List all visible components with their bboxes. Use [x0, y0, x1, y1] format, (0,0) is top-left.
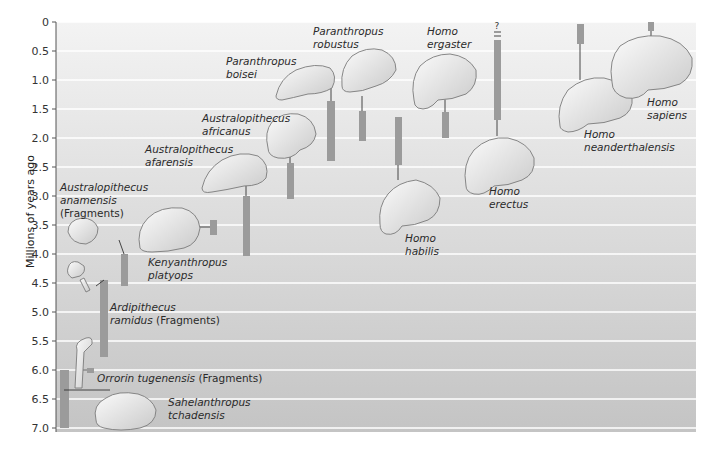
- label-kenyanthropus: Kenyanthropus platyops: [148, 256, 227, 282]
- label-genus: Homo: [405, 232, 439, 245]
- label-genus: Ardipithecus: [110, 301, 220, 314]
- label-species: robustus: [313, 38, 383, 51]
- bar-erectus: [494, 40, 501, 120]
- bar-ergaster: [442, 112, 449, 138]
- label-sapiens: Homo sapiens: [647, 96, 687, 122]
- label-genus: Homo: [584, 128, 675, 141]
- label-species: habilis: [405, 245, 439, 258]
- bar-kenyanthropus: [210, 220, 217, 235]
- label-anamensis: Australopithecus anamensis (Fragments): [60, 181, 148, 220]
- y-tick-label: 1.5: [32, 103, 50, 116]
- label-genus: Australopithecus: [145, 143, 233, 156]
- label-genus: Homo: [427, 25, 471, 38]
- label-species: boisei: [226, 68, 296, 81]
- erectus-question-mark: ?: [495, 21, 500, 31]
- y-tick-label: 1.0: [32, 74, 50, 87]
- y-tick-label: 6.5: [32, 393, 50, 406]
- label-robustus: Paranthropus robustus: [313, 25, 383, 51]
- label-neanderthalensis: Homo neanderthalensis: [584, 128, 675, 154]
- label-africanus: Australopithecus africanus: [202, 112, 290, 138]
- label-genus: Sahelanthropus: [168, 396, 251, 409]
- label-genus: Homo: [647, 96, 687, 109]
- bar-afarensis: [243, 196, 250, 256]
- y-tick-label: 5.5: [32, 335, 50, 348]
- label-ergaster: Homo ergaster: [427, 25, 471, 51]
- y-tick-label: 0.5: [32, 45, 50, 58]
- bar-orrorin: [87, 368, 94, 373]
- bar-boisei: [327, 101, 335, 161]
- label-species: anamensis: [60, 194, 148, 207]
- bar-neanderthalensis: [577, 24, 584, 44]
- label-species: tchadensis: [168, 409, 251, 422]
- bar-sahelanthropus: [60, 370, 69, 428]
- label-genus: Paranthropus: [313, 25, 383, 38]
- label-genus: Australopithecus: [60, 181, 148, 194]
- y-tick-label: 6.0: [32, 364, 50, 377]
- label-note: (Fragments): [198, 372, 262, 384]
- label-sahelanthropus: Sahelanthropus tchadensis: [168, 396, 251, 422]
- label-species: neanderthalensis: [584, 141, 675, 154]
- bar-africanus: [287, 163, 294, 199]
- label-ardipithecus: Ardipithecus ramidus (Fragments): [110, 301, 220, 327]
- label-species: sapiens: [647, 109, 687, 122]
- y-tick-label: 0: [42, 16, 49, 29]
- label-genus: Australopithecus: [202, 112, 290, 125]
- y-axis-label: Millions of years ago: [24, 142, 37, 282]
- bar-robustus: [359, 111, 366, 141]
- label-name: Orrorin tugenensis: [97, 372, 195, 384]
- label-genus: Kenyanthropus: [148, 256, 227, 269]
- label-habilis: Homo habilis: [405, 232, 439, 258]
- label-erectus: Homo erectus: [489, 185, 528, 211]
- bar-ardipithecus: [100, 280, 108, 357]
- label-species: africanus: [202, 125, 290, 138]
- label-orrorin: Orrorin tugenensis (Fragments): [97, 372, 262, 385]
- label-genus: Paranthropus: [226, 55, 296, 68]
- label-note: (Fragments): [60, 207, 148, 220]
- label-species: erectus: [489, 198, 528, 211]
- bar-sapiens: [648, 22, 654, 31]
- bar-habilis: [395, 117, 402, 165]
- label-species: ramidus: [110, 314, 153, 326]
- y-tick-label: 5.0: [32, 306, 50, 319]
- label-genus: Homo: [489, 185, 528, 198]
- y-tick-label: 7.0: [32, 422, 50, 435]
- label-note: (Fragments): [156, 314, 220, 326]
- label-species: platyops: [148, 269, 227, 282]
- label-boisei: Paranthropus boisei: [226, 55, 296, 81]
- label-species: ergaster: [427, 38, 471, 51]
- bar-anamensis: [121, 254, 128, 286]
- label-species: afarensis: [145, 156, 233, 169]
- label-afarensis: Australopithecus afarensis: [145, 143, 233, 169]
